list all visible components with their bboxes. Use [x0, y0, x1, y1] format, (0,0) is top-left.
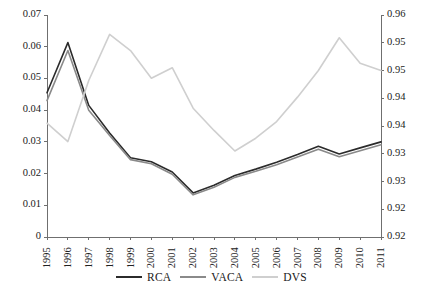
left-axis-tick-label: 0.02: [0, 168, 41, 179]
left-axis-tick-label: 0.04: [0, 104, 41, 115]
left-axis-tick-label: 0.06: [0, 41, 41, 52]
legend-swatch-icon: [252, 276, 278, 278]
chart-container: 00.010.020.030.040.050.060.07 0.920.920.…: [0, 0, 423, 294]
legend-label: DVS: [283, 271, 307, 283]
series-line-dvs: [47, 34, 381, 151]
series-lines: [47, 34, 381, 194]
right-axis-tick-label: 0.92: [387, 231, 405, 242]
right-axis-tick-label: 0.94: [387, 92, 405, 103]
left-axis-tick-label: 0.07: [0, 9, 41, 20]
chart-legend: RCAVACADVS: [0, 266, 423, 288]
series-line-rca: [47, 43, 381, 193]
legend-label: VACA: [211, 271, 243, 283]
right-axis-tick-label: 0.93: [387, 148, 405, 159]
right-axis-tick-label: 0.95: [387, 65, 405, 76]
legend-item-rca[interactable]: RCA: [116, 271, 171, 283]
legend-swatch-icon: [116, 276, 142, 278]
series-line-vaca: [47, 51, 381, 195]
right-axis-tick-label: 0.93: [387, 176, 405, 187]
left-axis-tick-label: 0: [0, 231, 41, 242]
legend-swatch-icon: [180, 276, 206, 278]
right-axis-tick-label: 0.95: [387, 37, 405, 48]
legend-item-vaca[interactable]: VACA: [180, 271, 243, 283]
legend-label: RCA: [147, 271, 171, 283]
left-axis-tick-label: 0.03: [0, 136, 41, 147]
legend-item-dvs[interactable]: DVS: [252, 271, 307, 283]
left-axis-tick-label: 0.01: [0, 199, 41, 210]
left-axis-tick-label: 0.05: [0, 72, 41, 83]
right-axis-tick-label: 0.94: [387, 120, 405, 131]
axis-lines: [47, 15, 381, 237]
right-axis-tick-label: 0.96: [387, 9, 405, 20]
right-axis-tick-label: 0.92: [387, 203, 405, 214]
